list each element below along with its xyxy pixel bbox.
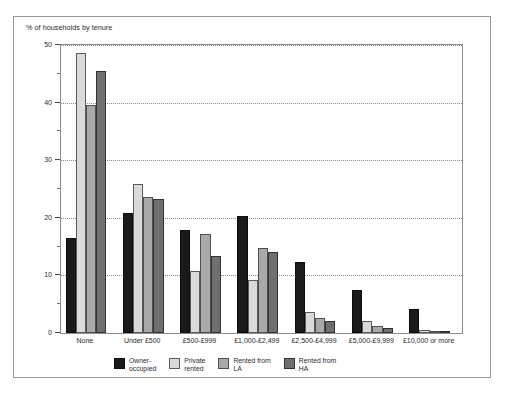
legend-swatch xyxy=(284,358,295,369)
x-axis-label: Under £500 xyxy=(124,337,161,344)
bar xyxy=(86,105,96,333)
bar xyxy=(258,248,268,333)
x-axis-label: None xyxy=(77,337,94,344)
x-axis: NoneUnder £500£500-£999£1,000-£2,499£2,5… xyxy=(60,335,463,355)
gridline xyxy=(61,103,462,104)
bar xyxy=(190,271,200,333)
bar xyxy=(200,234,210,333)
chart-figure: % of households by tenure 01020304050 No… xyxy=(13,16,491,378)
gridline xyxy=(61,45,462,46)
legend-swatch xyxy=(114,358,125,369)
bar xyxy=(180,230,190,333)
bar xyxy=(76,53,86,334)
bar xyxy=(133,184,143,333)
bar xyxy=(315,318,325,333)
bar xyxy=(237,216,247,333)
plot-area xyxy=(60,44,463,334)
y-axis-label: 20 xyxy=(44,213,52,220)
gridline xyxy=(61,160,462,161)
legend-item: Owner- occupied xyxy=(114,357,156,372)
bar xyxy=(143,197,153,333)
bar xyxy=(409,309,419,333)
bar xyxy=(325,321,335,333)
x-axis-label: £500-£999 xyxy=(183,337,216,344)
bar xyxy=(305,312,315,333)
bar xyxy=(211,256,221,333)
chart-legend: Owner- occupiedPrivate rentedRented from… xyxy=(114,357,349,377)
bar xyxy=(430,331,440,333)
y-axis-label: 40 xyxy=(44,98,52,105)
legend-swatch xyxy=(218,358,229,369)
gridline xyxy=(61,218,462,219)
bar xyxy=(295,262,305,333)
bar xyxy=(362,321,372,333)
x-axis-label: £1,000-£2,499 xyxy=(234,337,279,344)
bar xyxy=(123,213,133,333)
legend-label: Owner- occupied xyxy=(129,357,156,372)
y-axis-label: 30 xyxy=(44,156,52,163)
x-axis-label: £2,500-£4,999 xyxy=(291,337,336,344)
y-axis-label: 10 xyxy=(44,271,52,278)
bar xyxy=(248,280,258,333)
bar xyxy=(66,238,76,333)
legend-item: Rented from HA xyxy=(284,357,336,372)
bar xyxy=(372,326,382,333)
y-axis: 01020304050 xyxy=(14,17,60,335)
legend-item: Rented from LA xyxy=(218,357,270,372)
y-axis-label: 0 xyxy=(48,329,52,336)
legend-label: Private rented xyxy=(184,357,205,372)
bar xyxy=(440,331,450,333)
bar xyxy=(383,328,393,333)
bar xyxy=(268,252,278,333)
y-axis-label: 50 xyxy=(44,41,52,48)
bar xyxy=(96,71,106,333)
bar xyxy=(153,199,163,333)
bar xyxy=(352,290,362,333)
legend-swatch xyxy=(169,358,180,369)
legend-label: Rented from LA xyxy=(233,357,270,372)
legend-item: Private rented xyxy=(169,357,205,372)
bar xyxy=(419,330,429,333)
x-axis-label: £10,000 or more xyxy=(403,337,454,344)
x-axis-label: £5,000-£9,999 xyxy=(349,337,394,344)
legend-label: Rented from HA xyxy=(299,357,336,372)
